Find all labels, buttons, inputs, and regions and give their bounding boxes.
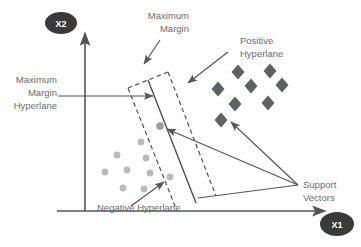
positive-hyperlane-line bbox=[168, 72, 216, 196]
data-point-circle bbox=[124, 167, 131, 174]
annotations-group: Maximum Margin Positive Hyperlane Maximu… bbox=[14, 10, 337, 213]
data-point-diamond bbox=[229, 97, 242, 112]
support-vector-leader-circle bbox=[167, 129, 298, 185]
support-vector-leader-diamond bbox=[231, 122, 298, 185]
x-axis-badge-label: X1 bbox=[331, 220, 342, 230]
svm-diagram-canvas: X2 X1 bbox=[0, 0, 361, 247]
data-point-diamond bbox=[212, 82, 225, 97]
data-point-circle bbox=[141, 186, 148, 193]
positive-hyperlane-label-line1: Positive bbox=[240, 35, 273, 46]
support-vectors-label-line1: Support bbox=[303, 179, 337, 190]
maximum-margin-hyperlane-line bbox=[148, 80, 196, 203]
positive-hyperlane-label-line2: Hyperlane bbox=[240, 48, 283, 59]
support-vector-diamond bbox=[215, 113, 228, 128]
maximum-margin-hyperlane-label-line2: Margin bbox=[28, 87, 57, 98]
y-axis-badge-label: X2 bbox=[55, 19, 66, 29]
data-point-diamond bbox=[232, 65, 245, 80]
data-point-circle bbox=[138, 139, 145, 146]
data-point-circle bbox=[102, 169, 109, 176]
axes-group bbox=[57, 33, 325, 211]
data-point-circle bbox=[167, 174, 174, 181]
x-axis-badge: X1 bbox=[320, 212, 354, 236]
maximum-margin-hyperlane-label-line1: Maximum bbox=[16, 74, 57, 85]
support-vectors-label-line2: Vectors bbox=[303, 192, 335, 203]
data-point-circle bbox=[120, 185, 127, 192]
positive-class-markers bbox=[212, 64, 289, 128]
negative-hyperlane-label: Negative Hyperlane bbox=[97, 202, 180, 213]
maximum-margin-label-line2: Margin bbox=[160, 23, 189, 34]
data-point-circle bbox=[143, 155, 150, 162]
data-point-diamond bbox=[262, 96, 275, 111]
support-vector-circle bbox=[156, 122, 164, 130]
data-point-circle bbox=[114, 152, 121, 159]
svm-diagram: X2 X1 bbox=[0, 0, 361, 247]
data-point-diamond bbox=[264, 64, 277, 79]
positive-hyperlane-leader bbox=[188, 52, 228, 83]
data-point-diamond bbox=[245, 79, 258, 94]
negative-class-markers bbox=[102, 122, 174, 192]
data-point-circle bbox=[147, 170, 154, 177]
maximum-margin-leader bbox=[144, 40, 160, 64]
y-axis-badge: X2 bbox=[45, 12, 77, 34]
maximum-margin-label-line1: Maximum bbox=[148, 10, 189, 21]
maximum-margin-hyperlane-label-line3: Hyperlane bbox=[14, 100, 57, 111]
leader-lines-group bbox=[58, 40, 298, 206]
negative-hyperlane-line bbox=[128, 88, 177, 211]
data-point-diamond bbox=[276, 78, 289, 93]
